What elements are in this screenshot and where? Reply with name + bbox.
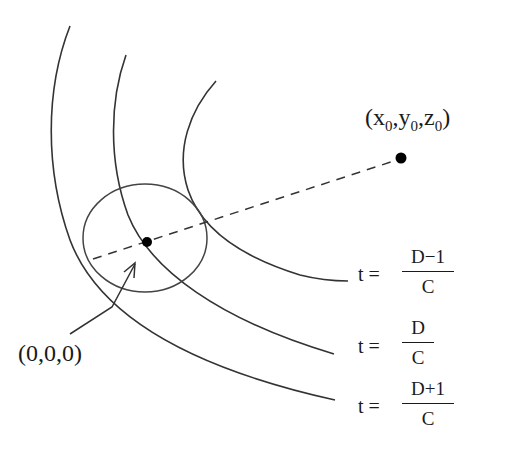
- fraction-numerator: D: [402, 317, 434, 339]
- coord-z: z: [424, 104, 435, 130]
- origin-point: [142, 237, 152, 247]
- fraction-d-over-c: D C: [402, 317, 434, 369]
- origin-label: (0,0,0): [18, 340, 82, 367]
- t-equals-label-3: t =: [358, 395, 380, 418]
- coord-x: x: [373, 104, 385, 130]
- t-equals-label-1: t =: [358, 263, 380, 286]
- fraction-denominator: C: [402, 347, 434, 369]
- direction-dashed-line: [93, 159, 400, 259]
- fraction-d-minus-1-over-c: D−1 C: [402, 246, 454, 298]
- t-equals-label-2: t =: [358, 335, 380, 358]
- coord-y: y: [399, 104, 411, 130]
- wavefront-arc-inner: [183, 81, 348, 281]
- source-point: [396, 153, 407, 164]
- origin-arrow: [70, 264, 135, 334]
- fraction-bar: [402, 271, 454, 272]
- fraction-numerator: D+1: [402, 378, 454, 400]
- fraction-bar: [402, 342, 434, 343]
- fraction-d-plus-1-over-c: D+1 C: [402, 378, 454, 430]
- source-point-label: (x0,y0,z0): [365, 104, 450, 135]
- diagram-canvas: (x0,y0,z0) (0,0,0) t = D−1 C t = D C t =…: [0, 0, 514, 452]
- fraction-bar: [402, 403, 454, 404]
- fraction-denominator: C: [402, 276, 454, 298]
- wavefront-arc-middle: [114, 55, 335, 354]
- wavefront-arc-outer: [51, 26, 335, 400]
- fraction-denominator: C: [402, 408, 454, 430]
- fraction-numerator: D−1: [402, 246, 454, 268]
